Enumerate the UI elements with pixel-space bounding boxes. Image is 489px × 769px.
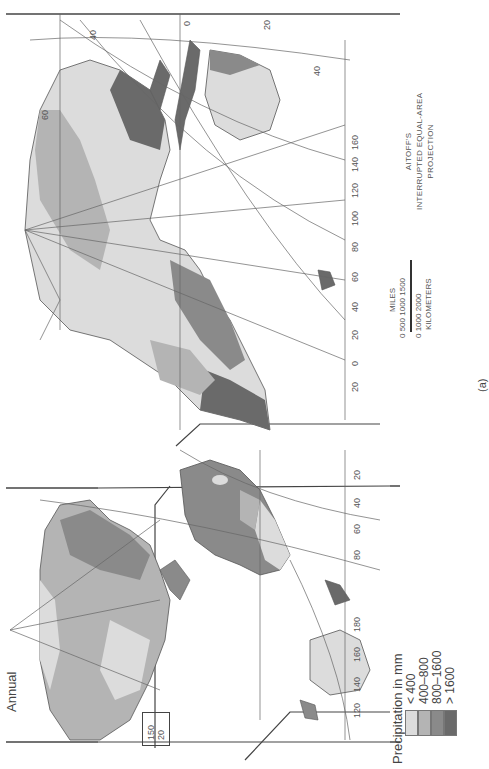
legend-label-lt400: < 400: [404, 674, 418, 704]
lon-label: 160: [352, 647, 362, 662]
scale-miles-label: MILES: [388, 288, 397, 312]
figure-label: (a): [476, 379, 488, 392]
lon-label: 40: [350, 302, 360, 312]
legend-swatch-800-1600: [431, 710, 444, 736]
legend-title: Precipitation in mm: [390, 653, 405, 764]
lat-label: 60: [40, 110, 50, 120]
legend-label-gt1600: > 1600: [443, 667, 457, 704]
lon-label: 40: [352, 498, 362, 508]
lat-label: 40: [88, 30, 98, 40]
scale-bar-line: [410, 260, 412, 332]
lon-label: 140: [352, 677, 362, 692]
lon-label: 100: [350, 211, 360, 226]
lon-label: 120: [352, 703, 362, 718]
figure-title: Annual: [4, 672, 19, 712]
lat-label: 40: [312, 66, 322, 76]
legend-swatch-lt400: [405, 710, 418, 736]
legend-swatch-gt1600: [444, 710, 457, 736]
precipitation-map-figure: Annual Precipitation in mm < 400 400–800…: [0, 0, 489, 769]
north-america: [40, 500, 190, 740]
lat-label: 20: [262, 20, 272, 30]
lon-label: 60: [352, 524, 362, 534]
lon-label: 0: [350, 361, 360, 366]
legend-label-800-1600: 800–1600: [430, 651, 444, 704]
lat-label: 0: [182, 21, 192, 26]
lon-label: 20: [350, 382, 360, 392]
lon-label: 160: [350, 135, 360, 150]
south-america: [180, 460, 290, 575]
projection-line-1: AITOFF'S: [403, 93, 414, 210]
lon-label: 120: [350, 183, 360, 198]
projection-line-2: INTERRUPTED EQUAL-AREA: [414, 93, 425, 210]
scale-km-ticks: 0 1000 2000: [414, 294, 423, 339]
lon-label: 20: [350, 330, 360, 340]
legend-label-400-800: 400–800: [417, 657, 431, 704]
scale-km-label: KILOMETERS: [424, 278, 433, 330]
lon-label: 140: [350, 157, 360, 172]
lon-label: 20: [352, 470, 362, 480]
lon-label: 80: [352, 550, 362, 560]
inset-label: 20: [156, 730, 166, 740]
projection-line-3: PROJECTION: [425, 93, 436, 210]
lon-label: 180: [352, 617, 362, 632]
legend-swatch-400-800: [418, 710, 431, 736]
lon-label: 60: [350, 272, 360, 282]
lon-label: 80: [350, 242, 360, 252]
inset-label: 150: [146, 725, 156, 740]
scale-miles-ticks: 0 500 1000 1500: [398, 278, 407, 338]
projection-note: AITOFF'S INTERRUPTED EQUAL-AREA PROJECTI…: [403, 93, 436, 210]
